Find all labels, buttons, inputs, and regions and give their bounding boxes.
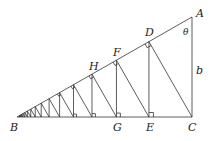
similar-triangles-diagram: A B C D E F G H θ b xyxy=(0,0,214,141)
label-b: b xyxy=(196,64,203,77)
label-E: E xyxy=(145,121,154,134)
label-C: C xyxy=(188,121,197,134)
label-F: F xyxy=(112,46,121,59)
label-A: A xyxy=(195,7,204,20)
label-B: B xyxy=(9,121,18,134)
construction-lines xyxy=(17,17,192,117)
right-angle-marks xyxy=(57,44,153,117)
label-D: D xyxy=(144,26,154,39)
label-H: H xyxy=(88,60,99,73)
label-G: G xyxy=(113,121,122,134)
label-theta: θ xyxy=(183,27,189,37)
